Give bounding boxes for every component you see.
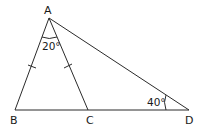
point-label-b: B: [10, 114, 18, 127]
angle-label-a: 20°: [42, 40, 61, 52]
point-label-a: A: [44, 4, 52, 17]
tick-mark-ab: [28, 65, 36, 68]
angle-label-d: 40°: [147, 96, 166, 108]
segment-ad: [49, 18, 189, 110]
segment-ab: [15, 18, 49, 110]
point-label-c: C: [86, 114, 94, 127]
segment-ac: [49, 18, 88, 110]
point-label-d: D: [185, 114, 193, 127]
angle-arc-a: [42, 37, 57, 39]
tick-mark-ac: [64, 64, 72, 68]
triangle-diagram: A B C D 20° 40°: [0, 0, 200, 132]
